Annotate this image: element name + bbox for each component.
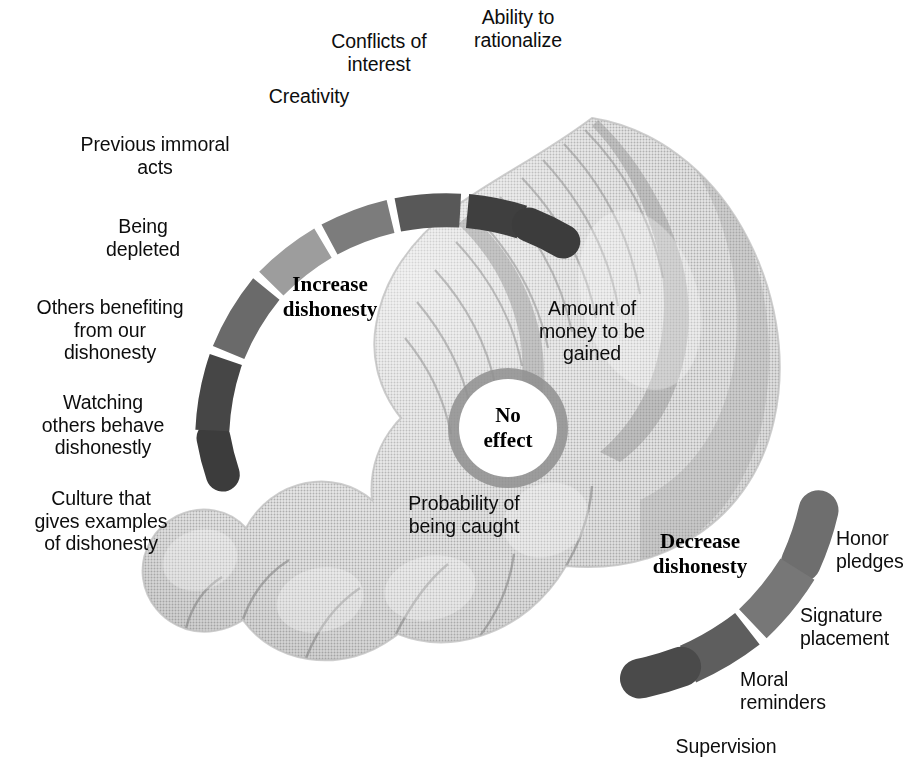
increase-segment-creativity[interactable] [398,210,460,215]
increase-segment-culture[interactable] [214,438,223,475]
label-creativity[interactable]: Creativity [269,85,349,108]
increase-dishonesty-title: Increase dishonesty [283,272,378,322]
label-being-depleted[interactable]: Being depleted [106,215,180,260]
dishonesty-diagram-graphic [0,0,920,776]
increase-segment-rationalize[interactable] [529,225,564,242]
increase-segment-others-benefiting[interactable] [229,289,267,352]
label-moral-reminders[interactable]: Moral reminders [740,668,826,713]
label-probability-caught[interactable]: Probability of being caught [408,492,519,537]
figure-canvas: No effect Increase dishonesty Decrease d… [0,0,920,776]
label-previous-immoral-acts[interactable]: Previous immoral acts [80,133,229,178]
label-amount-of-money[interactable]: Amount of money to be gained [539,297,645,365]
label-ability-to-rationalize[interactable]: Ability to rationalize [474,6,562,51]
increase-segment-watching[interactable] [212,359,226,430]
label-culture-examples[interactable]: Culture that gives examples of dishonest… [35,487,168,555]
label-signature-placement[interactable]: Signature placement [800,604,889,649]
decrease-dishonesty-title: Decrease dishonesty [653,529,748,579]
decrease-segment-signature-placement[interactable] [753,569,798,624]
label-watching-others[interactable]: Watching others behave dishonestly [42,391,164,459]
decrease-segment-supervision[interactable] [640,667,681,679]
hub-label: No effect [484,403,533,453]
label-supervision[interactable]: Supervision [676,735,777,758]
label-honor-pledges[interactable]: Honor pledges [836,527,904,572]
label-others-benefiting[interactable]: Others benefiting from our dishonesty [37,296,184,364]
label-conflicts-of-interest[interactable]: Conflicts of interest [331,30,426,75]
decrease-segment-honor-pledges[interactable] [801,510,819,562]
increase-segment-previous-immoral[interactable] [329,216,390,239]
